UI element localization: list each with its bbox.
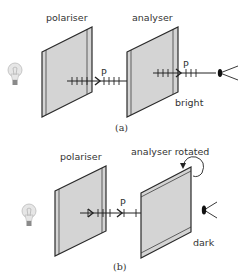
caption-b: (b) <box>113 261 127 272</box>
diagram-a: polariser P analyser <box>8 12 238 133</box>
light-bulb-icon <box>8 63 22 85</box>
polariser-label-b: polariser <box>60 151 102 162</box>
analyser-label-b: analyser rotated <box>131 146 209 157</box>
ray-b <box>80 209 142 217</box>
ray-a-1 <box>67 77 135 85</box>
analyser-filter-a <box>127 27 178 117</box>
result-label-dark: dark <box>193 237 215 248</box>
ray-label-p-a1: P <box>101 67 107 78</box>
analyser-label-a: analyser <box>132 12 173 23</box>
ray-label-p-b: P <box>120 197 126 208</box>
light-bulb-icon <box>22 204 36 226</box>
polariser-filter-a <box>42 27 92 117</box>
caption-a: (a) <box>115 122 128 133</box>
result-label-bright: bright <box>175 97 204 108</box>
eye-icon-b <box>202 202 217 218</box>
analyser-filter-rotated-b <box>141 167 191 258</box>
polarisation-diagram: polariser P analyser <box>0 0 240 274</box>
diagram-b: polariser P analyser rotated <box>22 146 217 272</box>
polariser-label-a: polariser <box>46 12 88 23</box>
eye-icon-a <box>218 66 238 80</box>
ray-label-p-a2: P <box>183 59 189 70</box>
